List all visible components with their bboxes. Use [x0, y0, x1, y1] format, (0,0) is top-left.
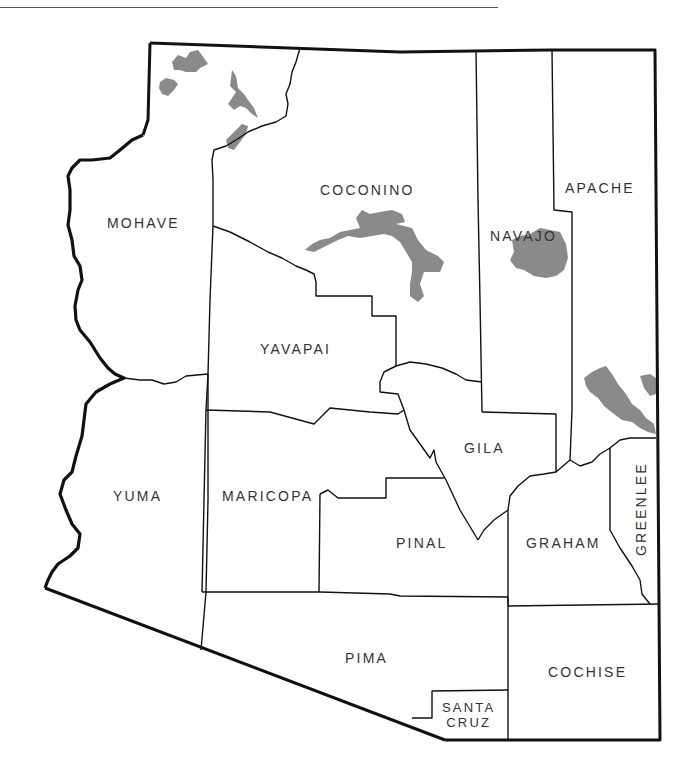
county-label-greenlee: GREENLEE: [634, 462, 648, 556]
county-label-santa-cruz-line1: SANTA: [442, 701, 495, 716]
shaded-area-mohave-north-2: [159, 78, 178, 96]
county-label-yavapai: YAVAPAI: [260, 342, 331, 356]
shaded-area-lake-mead: [228, 70, 258, 118]
shaded-areas: [159, 50, 656, 434]
county-label-yuma: YUMA: [113, 489, 162, 503]
county-label-gila: GILA: [464, 441, 505, 455]
shaded-area-apache-east: [640, 374, 656, 396]
county-boundaries: [124, 48, 660, 740]
county-label-santa-cruz-line2: CRUZ: [442, 716, 495, 731]
county-label-graham: GRAHAM: [526, 536, 601, 550]
state-boundary: [45, 43, 660, 740]
shaded-area-grand-canyon: [305, 210, 444, 302]
county-label-cochise: COCHISE: [548, 665, 627, 679]
county-label-pima: PIMA: [345, 651, 388, 665]
county-label-navajo: NAVAJO: [490, 229, 557, 243]
shaded-area-lake-mohave: [226, 124, 248, 150]
county-label-maricopa: MARICOPA: [222, 489, 313, 503]
county-label-mohave: MOHAVE: [107, 216, 180, 230]
county-label-coconino: COCONINO: [320, 183, 415, 197]
county-label-santa-cruz: SANTA CRUZ: [442, 701, 495, 731]
colorado-river-boundary: [45, 135, 143, 588]
county-label-apache: APACHE: [565, 181, 635, 195]
county-label-pinal: PINAL: [396, 536, 447, 550]
shaded-area-mohave-north-1: [172, 50, 208, 72]
